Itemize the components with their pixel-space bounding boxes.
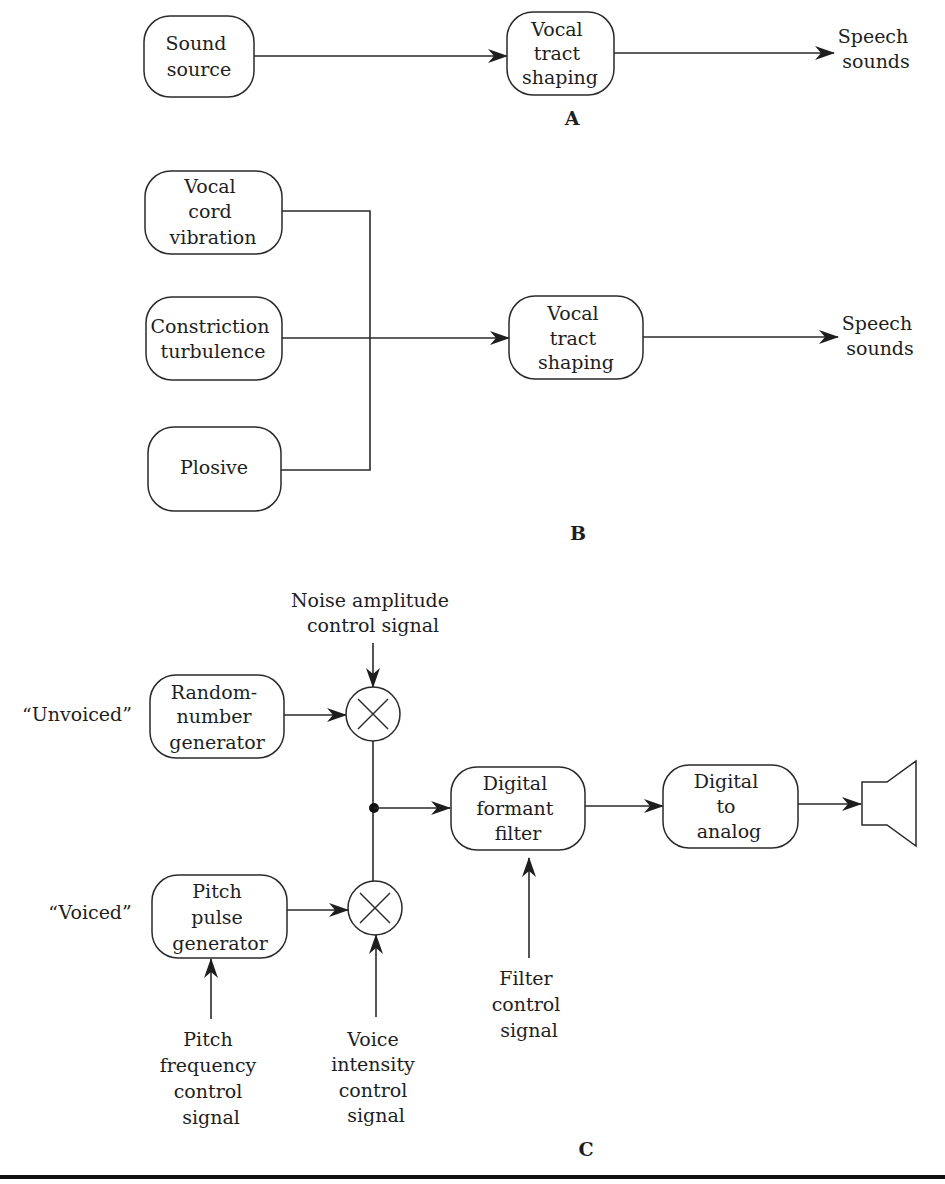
speech-sounds-label-b: Speech sounds xyxy=(842,312,919,359)
unvoiced-label: “Unvoiced” xyxy=(22,703,132,725)
random-number-generator-label: Random- number generator xyxy=(169,681,265,753)
sound-source-box xyxy=(144,16,254,97)
section-label-c: C xyxy=(578,1138,593,1160)
voice-intensity-signal-label: Voice intensity control signal xyxy=(331,1028,421,1126)
section-label-b: B xyxy=(570,522,586,544)
multiply-icon xyxy=(346,687,400,741)
noise-amplitude-signal-label: Noise amplitude control signal xyxy=(291,589,455,636)
speech-sounds-label-a: Speech sounds xyxy=(838,25,915,72)
section-b: Vocal cord vibration Constriction turbul… xyxy=(145,171,918,544)
voiced-label: “Voiced” xyxy=(48,901,132,923)
plosive-label: Plosive xyxy=(180,456,248,478)
speaker-icon xyxy=(862,761,916,846)
filter-control-signal-label: Filter control signal xyxy=(492,967,567,1041)
source-combiner-line xyxy=(281,211,370,470)
section-c: Noise amplitude control signal “Unvoiced… xyxy=(22,589,916,1160)
section-label-a: A xyxy=(564,107,580,129)
multiply-icon xyxy=(348,881,402,935)
section-a: Sound source Vocal tract shaping Speech … xyxy=(144,12,914,129)
bottom-rule xyxy=(0,1175,945,1179)
pitch-frequency-signal-label: Pitch frequency control signal xyxy=(160,1028,263,1128)
constriction-box xyxy=(146,297,282,380)
speech-production-diagram: Sound source Vocal tract shaping Speech … xyxy=(0,0,945,1184)
